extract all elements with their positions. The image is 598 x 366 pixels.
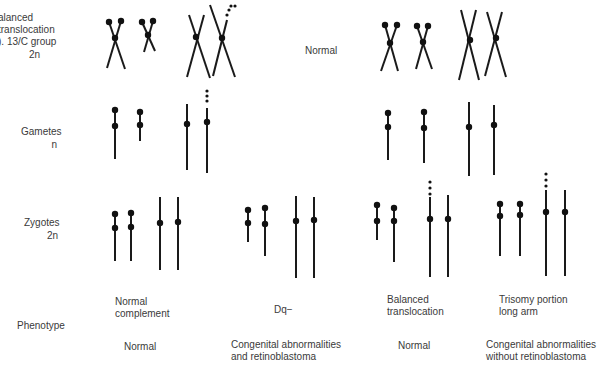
centromere-dot <box>157 220 163 226</box>
zygote-chromosome <box>157 197 163 270</box>
zygote-chromosome <box>311 197 317 278</box>
centromere-dot <box>219 35 225 41</box>
centromere-dot <box>175 219 181 225</box>
satellite-dot <box>428 180 431 183</box>
zygote-chromosome <box>128 210 134 261</box>
centromere-dot <box>245 220 251 226</box>
label-gametes: Gametes <box>21 126 62 138</box>
zygote-type-trisomy: Trisomy portion long arm <box>499 294 568 318</box>
satellite-dot <box>544 178 547 181</box>
zygote-chromosome <box>497 201 503 256</box>
satellite-dot <box>233 4 236 7</box>
centromere-dot <box>193 34 199 40</box>
centromere-dot <box>420 39 426 45</box>
label-parent-ploidy: 2n <box>0 49 40 61</box>
centromere-dot <box>445 216 451 222</box>
chromatid-line <box>107 21 121 68</box>
centromere-dot <box>374 218 380 224</box>
centromere-dot <box>311 217 317 223</box>
parent-chromosomes <box>106 4 506 80</box>
centromere-dot <box>421 109 427 115</box>
chromatid-line <box>109 22 125 69</box>
phenotype-normal-1: Normal <box>124 341 156 353</box>
label-zygotes-ploidy: 2n <box>0 230 58 242</box>
chromatid-line <box>487 12 506 77</box>
satellite-dot <box>229 4 232 7</box>
centromere-dot <box>517 212 523 218</box>
chromatid-line <box>417 26 432 69</box>
gamete-chromosome <box>204 89 210 173</box>
crossed-chromosome-pair <box>485 12 506 77</box>
centromere-dot <box>262 221 268 227</box>
centromere-dot <box>493 35 499 41</box>
centromere-dot <box>562 209 568 215</box>
satellite-dot <box>227 8 230 11</box>
satellite-dot <box>428 192 431 195</box>
centromere-dot <box>112 107 118 113</box>
crossed-chromosome-pair <box>459 10 479 80</box>
label-gametes-ploidy: n <box>0 139 57 151</box>
centromere-dot <box>491 122 497 128</box>
gamete-chromosomes <box>112 89 497 176</box>
satellite-dot <box>544 184 547 187</box>
chromatid-line <box>189 15 210 78</box>
centromere-dot <box>112 225 118 231</box>
zygote-chromosome <box>517 201 523 256</box>
zygote-chromosome <box>245 207 251 242</box>
centromere-dot <box>245 207 251 213</box>
short-arm-dot <box>106 19 112 25</box>
short-arm-dot <box>394 22 400 28</box>
zygote-chromosome <box>427 180 433 277</box>
chromatid-line <box>485 12 502 76</box>
satellite-dot <box>544 172 547 175</box>
crossed-chromosome-pair <box>139 18 156 52</box>
chromatid-line <box>461 10 479 80</box>
short-arm-dot <box>382 22 388 28</box>
gamete-chromosome <box>137 109 143 141</box>
zygote-chromosome <box>293 196 299 278</box>
short-arm-dot <box>425 23 431 29</box>
label-balanced-translocation-parent: alanced translocation ). 13/C group <box>0 12 38 48</box>
gamete-chromosome <box>466 102 472 176</box>
crossed-chromosome-pair <box>106 18 125 69</box>
centromere-dot <box>467 37 473 43</box>
centromere-dot <box>128 210 134 216</box>
zygote-chromosome <box>175 197 181 270</box>
zygote-chromosome <box>445 195 451 277</box>
crossed-chromosome-pair <box>414 23 432 69</box>
centromere-dot <box>466 124 472 130</box>
phenotype-normal-2: Normal <box>398 340 430 352</box>
satellite-dot <box>205 94 208 97</box>
zygote-chromosome <box>112 211 118 261</box>
centromere-dot <box>184 121 190 127</box>
centromere-dot <box>112 35 118 41</box>
centromere-dot <box>137 109 143 115</box>
short-arm-dot <box>118 18 124 24</box>
centromere-dot <box>293 218 299 224</box>
zygote-chromosome <box>562 190 568 276</box>
zygote-chromosome <box>543 172 549 276</box>
satellite-dot <box>205 99 208 102</box>
label-phenotype: Phenotype <box>17 320 65 332</box>
crossed-chromosome-pair <box>187 15 210 78</box>
label-zygotes: Zygotes <box>24 217 60 229</box>
gamete-chromosome <box>184 104 190 170</box>
crossed-chromosome-pair <box>381 22 400 71</box>
zygote-chromosome <box>391 205 397 262</box>
centromere-dot <box>497 201 503 207</box>
centromere-dot <box>421 125 427 131</box>
centromere-dot <box>391 218 397 224</box>
centromere-dot <box>137 122 143 128</box>
centromere-dot <box>262 205 268 211</box>
short-arm-dot <box>139 19 145 25</box>
centromere-dot <box>385 110 391 116</box>
label-normal-parent: Normal <box>305 45 337 57</box>
short-arm-dot <box>414 23 420 29</box>
gamete-chromosome <box>385 110 391 160</box>
zygote-type-balanced-translocation: Balanced translocation <box>387 294 444 318</box>
zygote-chromosome <box>262 205 268 256</box>
gamete-chromosome <box>491 105 497 175</box>
zygote-type-normal-complement: Normal complement <box>115 296 169 320</box>
satellite-dot <box>205 89 208 92</box>
gamete-chromosome <box>421 109 427 163</box>
